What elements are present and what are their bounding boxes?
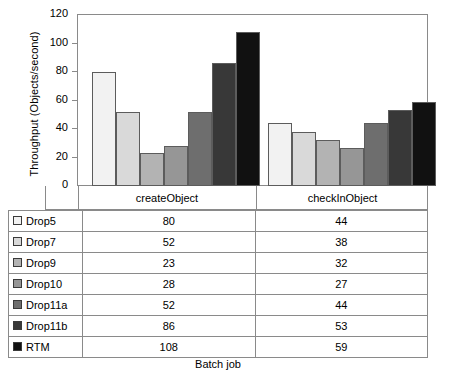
y-axis-tick-label: 40 <box>40 122 68 133</box>
table-row: Drop11a5244 <box>9 295 428 316</box>
table-cell-value: 27 <box>255 274 428 295</box>
y-axis-tick-label: 20 <box>40 151 68 162</box>
legend-entry: Drop5 <box>9 211 83 232</box>
table-cell-value: 28 <box>83 274 256 295</box>
bar-series-container <box>78 15 427 186</box>
x-axis-title: Batch job <box>8 358 428 370</box>
legend-label: Drop11a <box>26 300 67 312</box>
y-axis-tick-label: 80 <box>40 65 68 76</box>
bar <box>212 63 236 186</box>
category-divider <box>78 186 79 209</box>
legend-entry: Drop10 <box>9 274 83 295</box>
legend-swatch-icon <box>13 342 22 351</box>
legend-label: Drop10 <box>26 279 62 291</box>
table-cell-value: 44 <box>255 295 428 316</box>
y-axis-tick-label: 120 <box>40 8 68 19</box>
table-row: RTM10859 <box>9 337 428 358</box>
legend-swatch-icon <box>13 216 22 225</box>
category-label-row: createObjectcheckInObject <box>45 186 428 210</box>
table-cell-value: 53 <box>255 316 428 337</box>
category-label: createObject <box>78 186 256 209</box>
legend-swatch-icon <box>13 258 22 267</box>
table-cell-value: 80 <box>83 211 256 232</box>
legend-label: Drop5 <box>26 216 56 228</box>
legend-swatch-icon <box>13 279 22 288</box>
y-axis-tick-label: 60 <box>40 94 68 105</box>
table-cell-value: 44 <box>255 211 428 232</box>
bar <box>268 123 292 186</box>
table-cell-value: 108 <box>83 337 256 358</box>
bar <box>236 32 260 186</box>
category-divider <box>256 186 257 209</box>
y-axis-title: Throughput (Objects/second) <box>28 9 40 199</box>
table-cell-value: 86 <box>83 316 256 337</box>
data-table: Drop58044Drop75238Drop92332Drop102827Dro… <box>8 210 428 358</box>
table-row: Drop102827 <box>9 274 428 295</box>
table-row: Drop11b8653 <box>9 316 428 337</box>
legend-label: Drop7 <box>26 237 56 249</box>
y-axis-tick-label: 100 <box>40 37 68 48</box>
table-cell-value: 52 <box>83 295 256 316</box>
category-label: checkInObject <box>256 186 429 209</box>
legend-swatch-icon <box>13 300 22 309</box>
bar <box>140 153 164 186</box>
legend-entry: RTM <box>9 337 83 358</box>
legend-entry: Drop9 <box>9 253 83 274</box>
legend-entry: Drop11b <box>9 316 83 337</box>
table-row: Drop75238 <box>9 232 428 253</box>
legend-label: RTM <box>26 342 50 354</box>
bar <box>188 112 212 186</box>
table-cell-value: 38 <box>255 232 428 253</box>
bar <box>316 140 340 186</box>
bar <box>116 112 140 186</box>
legend-entry: Drop7 <box>9 232 83 253</box>
chart-figure: Throughput (Objects/second) 120100806040… <box>0 0 451 380</box>
bar <box>364 123 388 186</box>
bar <box>340 148 364 186</box>
table-row: Drop58044 <box>9 211 428 232</box>
legend-label: Drop11b <box>26 321 67 333</box>
bar <box>388 110 412 186</box>
table-row: Drop92332 <box>9 253 428 274</box>
legend-entry: Drop11a <box>9 295 83 316</box>
bar <box>164 146 188 186</box>
table-cell-value: 59 <box>255 337 428 358</box>
bar <box>292 132 316 186</box>
legend-swatch-icon <box>13 321 22 330</box>
table-cell-value: 32 <box>255 253 428 274</box>
table-cell-value: 52 <box>83 232 256 253</box>
legend-swatch-icon <box>13 237 22 246</box>
table-cell-value: 23 <box>83 253 256 274</box>
bar <box>92 72 116 186</box>
bar <box>412 102 436 186</box>
legend-label: Drop9 <box>26 258 56 270</box>
